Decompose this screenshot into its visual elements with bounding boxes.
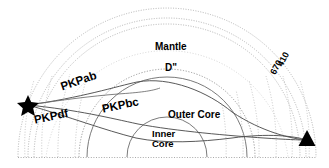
label-inner-core: Inner Core <box>152 129 175 149</box>
label-dprime: D" <box>165 63 177 74</box>
ray-path-diagram: Mantle D" Outer Core Inner Core PKPab PK… <box>0 0 329 168</box>
ray-path-extra-branch <box>28 88 160 105</box>
radial-guides-right <box>222 76 309 157</box>
label-outer-core: Outer Core <box>168 110 220 121</box>
label-inner-core-line2: Core <box>152 139 175 149</box>
label-mantle: Mantle <box>155 42 187 53</box>
